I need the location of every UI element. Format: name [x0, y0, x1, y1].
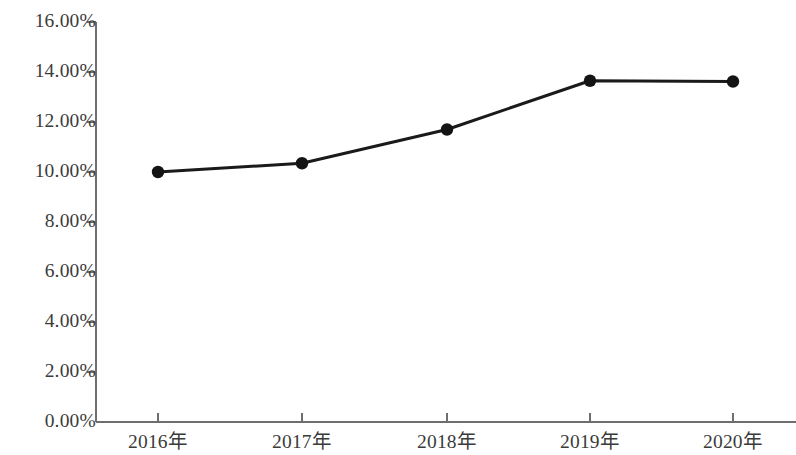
- x-axis-tick-labels: 2016年2017年2018年2019年2020年: [0, 0, 796, 455]
- x-axis-tick-label: 2016年: [98, 431, 218, 453]
- x-axis-tick-label: 2017年: [242, 431, 362, 453]
- x-axis-tick-label: 2018年: [387, 431, 507, 453]
- line-chart: 16.00%14.00%12.00%10.00%8.00%6.00%4.00%2…: [0, 0, 796, 455]
- x-axis-tick-label: 2019年: [530, 431, 650, 453]
- x-axis-tick-label: 2020年: [673, 431, 793, 453]
